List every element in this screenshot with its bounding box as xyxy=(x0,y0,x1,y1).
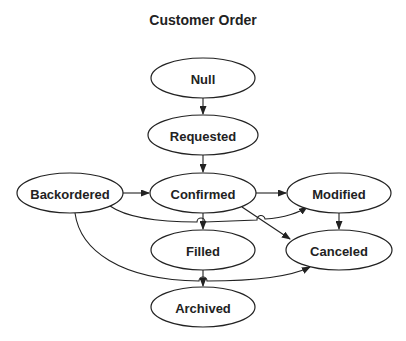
svg-text:Null: Null xyxy=(191,72,216,87)
node-canceled: Canceled xyxy=(286,230,392,270)
svg-text:Backordered: Backordered xyxy=(30,187,110,202)
state-diagram: Null Requested Confirmed Backordered Mod… xyxy=(0,0,406,341)
svg-text:Archived: Archived xyxy=(175,301,231,316)
svg-text:Canceled: Canceled xyxy=(310,244,368,259)
edge-confirmed-canceled xyxy=(242,207,290,239)
svg-text:Requested: Requested xyxy=(170,129,237,144)
node-confirmed: Confirmed xyxy=(150,173,256,213)
node-modified: Modified xyxy=(287,173,391,213)
svg-text:Confirmed: Confirmed xyxy=(171,187,236,202)
node-null: Null xyxy=(151,58,255,98)
node-requested: Requested xyxy=(148,115,258,155)
svg-text:Filled: Filled xyxy=(186,244,220,259)
svg-text:Modified: Modified xyxy=(312,187,365,202)
node-filled: Filled xyxy=(151,230,255,270)
node-archived: Archived xyxy=(151,287,255,327)
node-backordered: Backordered xyxy=(17,173,123,213)
